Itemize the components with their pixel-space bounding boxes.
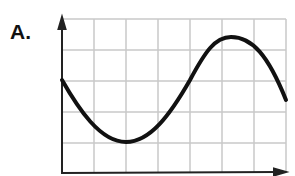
x-axis-arrow-icon [274,169,286,176]
axes [59,17,287,176]
sine-graph [0,0,295,176]
grid [62,19,286,172]
x-axis [61,172,278,173]
wave-curve [62,37,286,142]
